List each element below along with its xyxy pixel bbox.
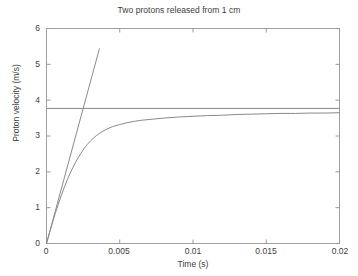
series-initial-tangent-line — [47, 48, 100, 243]
chart-container: Two protons released from 1 cm Proton ve… — [0, 0, 358, 276]
axis-frame — [47, 29, 340, 244]
plot-area — [0, 0, 358, 276]
tick-marks — [47, 29, 340, 244]
data-series-layer — [47, 48, 340, 243]
plot-frame — [47, 29, 340, 244]
series-proton-velocity-curve — [47, 113, 340, 244]
